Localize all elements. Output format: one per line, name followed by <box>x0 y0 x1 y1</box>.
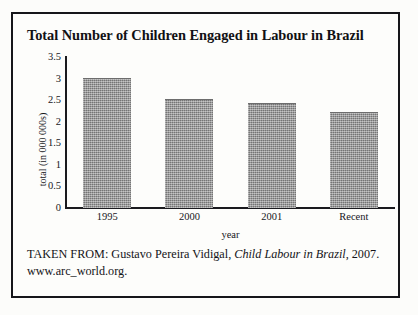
bar <box>248 103 296 208</box>
y-axis-tick-label: 0 <box>56 202 61 213</box>
bar <box>330 112 378 208</box>
bar-slot <box>231 56 313 208</box>
x-axis-tick-labels: 199520002001Recent <box>66 211 395 229</box>
figure-frame: Total Number of Children Engaged in Labo… <box>11 12 400 298</box>
x-axis-tick-label: 2001 <box>261 211 282 222</box>
source-prefix: TAKEN FROM: Gustavo Pereira Vidigal, <box>27 247 234 261</box>
bar <box>83 78 131 208</box>
y-axis-tick-label: 0.5 <box>48 180 61 191</box>
x-axis-title: year <box>66 229 395 240</box>
scanned-page: Total Number of Children Engaged in Labo… <box>0 0 418 315</box>
bar <box>165 99 213 208</box>
bar-slot <box>148 56 230 208</box>
bar-slot <box>66 56 148 208</box>
chart-plot-area: total (in 000 000s) 00.511.522.533.5 199… <box>13 56 398 236</box>
y-axis-tick-label: 3.5 <box>48 51 61 62</box>
y-axis-tick-label: 3 <box>56 72 61 83</box>
bar-series <box>66 56 395 208</box>
source-suffix: , 2007. <box>346 247 380 261</box>
y-axis-tick-labels: 00.511.522.533.5 <box>35 56 61 208</box>
x-axis-tick-label: Recent <box>339 211 368 222</box>
bar-slot <box>313 56 395 208</box>
x-axis-tick-label: 1995 <box>97 211 118 222</box>
source-attribution: TAKEN FROM: Gustavo Pereira Vidigal, Chi… <box>27 246 391 279</box>
y-axis-tick-label: 2.5 <box>48 94 61 105</box>
chart-title: Total Number of Children Engaged in Labo… <box>27 27 389 44</box>
source-book-title: Child Labour in Brazil <box>234 247 345 261</box>
y-axis-tick-label: 2 <box>56 115 61 126</box>
y-axis-tick-label: 1 <box>56 158 61 169</box>
y-axis-tick-label: 1.5 <box>48 137 61 148</box>
source-url: www.arc_world.org. <box>27 264 127 278</box>
x-axis-tick-label: 2000 <box>179 211 200 222</box>
